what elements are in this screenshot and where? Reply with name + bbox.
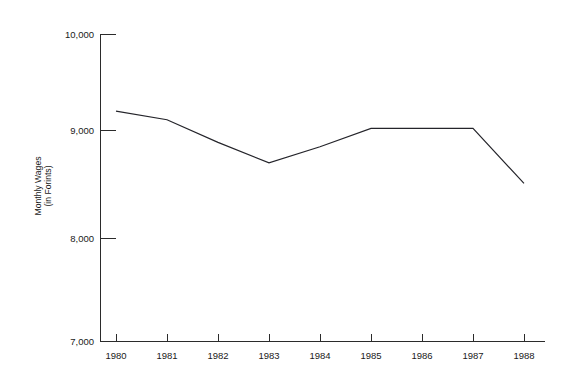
y-axis-title-line-2: (in Forints) — [43, 165, 53, 206]
x-tick-label-1982: 1982 — [207, 350, 228, 361]
x-tick-label-1988: 1988 — [513, 350, 534, 361]
y-axis-ticks — [101, 35, 117, 239]
y-tick-label-10000: 10,000 — [65, 29, 94, 40]
x-tick-label-1981: 1981 — [156, 350, 177, 361]
chart-page: 10,000 9,000 8,000 7,000 Monthly Wages (… — [0, 0, 578, 390]
x-axis-tick-labels: 1980 1981 1982 1983 1984 1985 1986 1987 … — [105, 350, 534, 361]
y-axis-tick-labels: 10,000 9,000 8,000 7,000 — [65, 29, 94, 347]
y-tick-label-7000: 7,000 — [70, 336, 94, 347]
x-tick-label-1984: 1984 — [309, 350, 330, 361]
x-tick-label-1983: 1983 — [258, 350, 279, 361]
line-chart: 10,000 9,000 8,000 7,000 Monthly Wages (… — [0, 0, 578, 390]
x-tick-label-1980: 1980 — [105, 350, 126, 361]
y-tick-label-9000: 9,000 — [70, 125, 94, 136]
y-axis-title-line-1: Monthly Wages — [33, 157, 43, 216]
x-tick-label-1986: 1986 — [411, 350, 432, 361]
x-tick-label-1987: 1987 — [462, 350, 483, 361]
wage-series-line — [116, 111, 524, 183]
x-axis-ticks — [117, 334, 525, 342]
y-axis-title: Monthly Wages (in Forints) — [33, 157, 53, 216]
y-tick-label-8000: 8,000 — [70, 233, 94, 244]
x-tick-label-1985: 1985 — [360, 350, 381, 361]
